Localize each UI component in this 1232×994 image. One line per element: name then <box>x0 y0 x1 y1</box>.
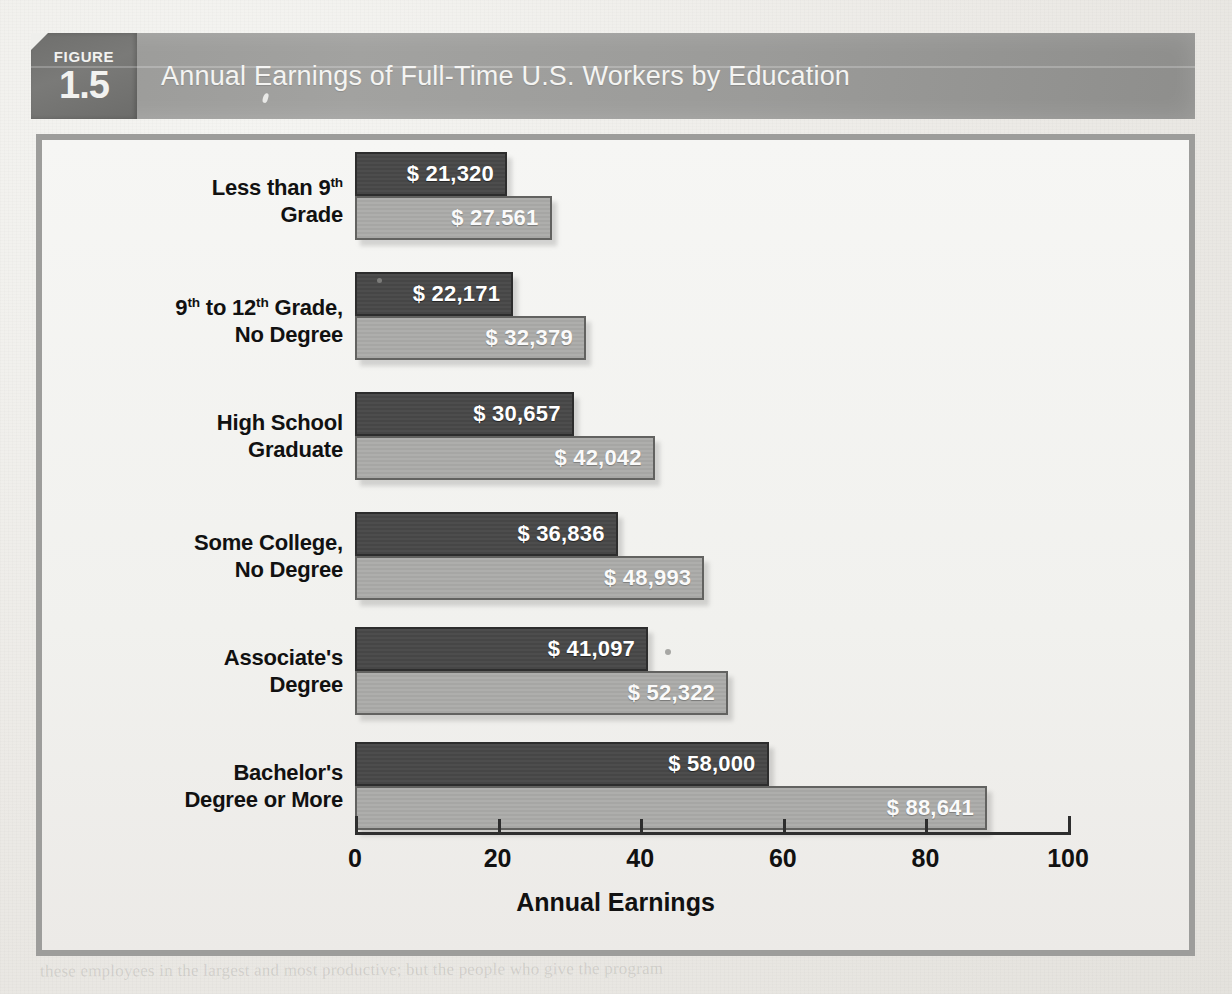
scan-speck-icon <box>377 278 382 283</box>
category-label-line-2: Degree or More <box>43 786 343 813</box>
x-axis-tick-label: 60 <box>748 844 818 873</box>
bar-upper-series: $ 32,379 <box>355 316 586 360</box>
x-axis-tick <box>640 819 643 832</box>
badge-corner-fold <box>31 33 48 50</box>
scan-speck-icon <box>665 649 671 655</box>
bar-chart-plot-area: Less than 9thGrade$ 21,320$ 27.5619th to… <box>42 140 1189 950</box>
x-axis-tick <box>783 819 786 832</box>
bar-lower-series: $ 58,000 <box>355 742 769 786</box>
x-axis-tick-label: 20 <box>463 844 533 873</box>
bar-upper-series: $ 88,641 <box>355 786 987 830</box>
x-axis-tick <box>355 816 358 832</box>
x-axis-title: Annual Earnings <box>42 888 1189 917</box>
category-label-line-1: High School <box>43 409 343 436</box>
figure-header-banner: FIGURE 1.5 Annual Earnings of Full-Time … <box>31 33 1195 119</box>
x-axis-line <box>355 832 1071 835</box>
bar-group: Some College,No Degree$ 36,836$ 48,993 <box>42 512 1189 600</box>
bar-group: Bachelor'sDegree or More$ 58,000$ 88,641 <box>42 742 1189 830</box>
bar-upper-series: $ 27.561 <box>355 196 552 240</box>
category-label-line-2: Graduate <box>43 436 343 463</box>
category-label-line-1: Less than 9th <box>43 169 343 201</box>
bar-group: Associate'sDegree$ 41,097$ 52,322 <box>42 627 1189 715</box>
figure-badge-word: FIGURE <box>54 49 114 64</box>
category-label: Some College,No Degree <box>43 529 343 583</box>
bar-lower-series: $ 30,657 <box>355 392 574 436</box>
bar-group: Less than 9thGrade$ 21,320$ 27.561 <box>42 152 1189 240</box>
x-axis-tick-label: 80 <box>890 844 960 873</box>
category-label: Less than 9thGrade <box>43 169 343 228</box>
category-label-line-1: Associate's <box>43 644 343 671</box>
category-label-line-1: 9th to 12th Grade, <box>43 289 343 321</box>
category-label-line-2: No Degree <box>43 321 343 348</box>
bar-lower-series: $ 36,836 <box>355 512 618 556</box>
bar-upper-series: $ 52,322 <box>355 671 728 715</box>
scan-showthrough-text-bottom: these employees in the largest and most … <box>40 955 1200 982</box>
bar-upper-series: $ 48,993 <box>355 556 704 600</box>
x-axis-tick-label: 0 <box>320 844 390 873</box>
x-axis-tick <box>925 819 928 832</box>
bar-group: 9th to 12th Grade,No Degree$ 22,171$ 32,… <box>42 272 1189 360</box>
bar-upper-series: $ 42,042 <box>355 436 655 480</box>
figure-badge-number: 1.5 <box>59 66 109 104</box>
x-axis-tick <box>498 819 501 832</box>
figure-number-badge: FIGURE 1.5 <box>31 33 137 119</box>
category-label-line-1: Some College, <box>43 529 343 556</box>
category-label: 9th to 12th Grade,No Degree <box>43 289 343 348</box>
figure-title: Annual Earnings of Full-Time U.S. Worker… <box>161 33 850 119</box>
x-axis-tick <box>1068 816 1071 832</box>
bar-lower-series: $ 21,320 <box>355 152 507 196</box>
x-axis-tick-label: 100 <box>1033 844 1103 873</box>
category-label-line-2: No Degree <box>43 556 343 583</box>
x-axis-tick-label: 40 <box>605 844 675 873</box>
bar-group: High SchoolGraduate$ 30,657$ 42,042 <box>42 392 1189 480</box>
category-label: Associate'sDegree <box>43 644 343 698</box>
category-label-line-1: Bachelor's <box>43 759 343 786</box>
category-label-line-2: Grade <box>43 201 343 228</box>
chart-frame: Less than 9thGrade$ 21,320$ 27.5619th to… <box>36 134 1195 956</box>
category-label-line-2: Degree <box>43 671 343 698</box>
bar-lower-series: $ 41,097 <box>355 627 648 671</box>
category-label: High SchoolGraduate <box>43 409 343 463</box>
category-label: Bachelor'sDegree or More <box>43 759 343 813</box>
